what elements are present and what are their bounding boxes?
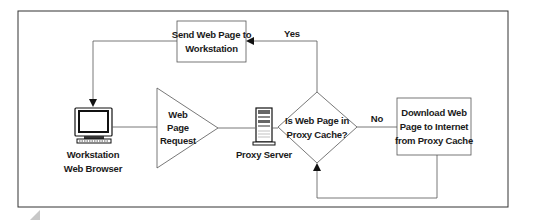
request-label-line-2: Page	[167, 122, 189, 133]
arrowhead-down-icon	[89, 99, 97, 107]
workstation-label-line-1: Workstation	[67, 149, 120, 160]
send-page-node: Send Web Page to Workstation	[172, 21, 252, 62]
request-label-line-3: Request	[160, 135, 197, 146]
send-page-box	[177, 21, 246, 62]
flowchart-diagram: Send Web Page to Workstation Yes Worksta…	[0, 0, 544, 222]
request-node: Web Page Request	[157, 88, 218, 168]
send-page-label-line-2: Workstation	[185, 43, 238, 54]
decision-label-line-1: Is Web Page in	[285, 115, 349, 126]
edge-send-to-workstation	[93, 41, 177, 100]
yes-label: Yes	[284, 28, 300, 39]
download-node: Download Web Page to Internet from Proxy…	[395, 98, 473, 155]
request-label-line-1: Web	[168, 109, 188, 120]
download-label-line-2: Page to Internet	[400, 121, 470, 132]
download-label-line-3: from Proxy Cache	[395, 135, 473, 146]
no-label: No	[371, 113, 384, 124]
workstation-node: Workstation Web Browser	[64, 108, 123, 174]
decision-label-line-2: Proxy Cache?	[287, 129, 348, 140]
edge-decision-yes	[254, 41, 317, 92]
arrowhead-up-icon	[313, 163, 321, 171]
server-tower-icon	[253, 108, 275, 145]
computer-monitor-icon	[75, 108, 112, 143]
corner-mark	[30, 210, 40, 220]
send-page-label-line-1: Send Web Page to	[172, 29, 252, 40]
proxy-server-label: Proxy Server	[236, 149, 293, 160]
download-label-line-1: Download Web	[401, 107, 467, 118]
edge-download-to-decision	[317, 155, 437, 198]
workstation-label-line-2: Web Browser	[64, 163, 123, 174]
